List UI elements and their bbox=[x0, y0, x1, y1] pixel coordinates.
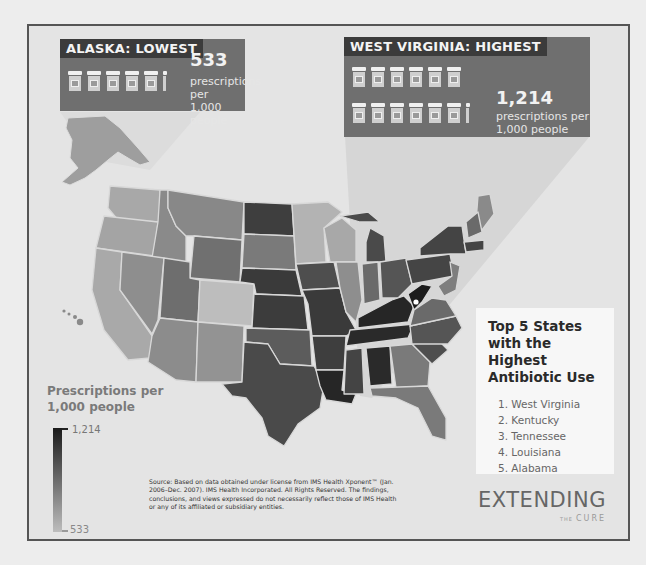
logo-tagline: THECURE bbox=[560, 514, 606, 523]
legend-min-label: 533 bbox=[70, 524, 89, 535]
state-south-dakota bbox=[242, 234, 296, 270]
state-hawaii bbox=[62, 309, 83, 325]
pill-bottle-icon bbox=[390, 67, 404, 87]
extending-the-cure-logo: EXTENDING THECURE bbox=[478, 488, 618, 534]
pill-bottle-icon bbox=[68, 71, 82, 91]
pill-bottle-icon bbox=[87, 71, 101, 91]
pill-bottle-icon bbox=[447, 67, 461, 87]
top-5-title: Top 5 States with the Highest Antibiotic… bbox=[488, 318, 604, 386]
state-kansas bbox=[252, 294, 308, 330]
top-5-item: 5. Alabama bbox=[488, 460, 604, 476]
state-wyoming bbox=[190, 236, 242, 282]
alaska-value: 533 bbox=[190, 49, 228, 70]
legend-tick-max bbox=[62, 428, 68, 430]
pill-bottle-icon bbox=[106, 71, 120, 91]
pill-bottle-icon bbox=[125, 71, 139, 91]
wv-pill-bottles-row2 bbox=[352, 103, 470, 123]
legend-title: Prescriptions per 1,000 people bbox=[47, 383, 163, 415]
wv-unit: prescriptions per 1,000 people bbox=[496, 110, 589, 136]
top-5-states-panel: Top 5 States with the Highest Antibiotic… bbox=[476, 308, 614, 474]
state-colorado bbox=[198, 280, 254, 326]
state-washington bbox=[108, 186, 160, 222]
pill-bottle-icon bbox=[409, 103, 423, 123]
pill-bottle-icon bbox=[144, 71, 158, 91]
partial-pill-bottle-icon bbox=[466, 103, 470, 123]
state-arkansas bbox=[312, 336, 346, 370]
pill-bottle-icon bbox=[409, 67, 423, 87]
state-arizona bbox=[148, 318, 198, 382]
top-5-item: 3. Tennessee bbox=[488, 428, 604, 444]
state-massachusetts bbox=[464, 240, 484, 252]
wv-marker-icon bbox=[413, 299, 418, 304]
pill-bottle-icon bbox=[390, 103, 404, 123]
wv-value: 1,214 bbox=[496, 87, 553, 108]
state-alabama bbox=[366, 346, 392, 386]
pill-bottle-icon bbox=[352, 103, 366, 123]
state-mississippi bbox=[344, 348, 364, 394]
partial-pill-bottle-icon bbox=[163, 71, 167, 91]
state-indiana bbox=[362, 262, 380, 304]
pill-bottle-icon bbox=[447, 103, 461, 123]
legend-max-label: 1,214 bbox=[72, 424, 101, 435]
alaska-unit: prescriptions per 1,000 people bbox=[190, 75, 261, 127]
legend-tick-min bbox=[62, 530, 68, 532]
pill-bottle-icon bbox=[371, 67, 385, 87]
legend-gradient-bar bbox=[53, 428, 62, 532]
source-note: Source: Based on data obtained under lic… bbox=[149, 478, 399, 512]
alaska-pill-bottles bbox=[68, 71, 167, 91]
top-5-item: 1. West Virginia bbox=[488, 396, 604, 412]
state-florida bbox=[370, 386, 446, 440]
top-5-list: 1. West Virginia 2. Kentucky 3. Tennesse… bbox=[488, 396, 604, 476]
alaska-callout-heading: ALASKA: LOWEST bbox=[60, 39, 203, 58]
wv-pill-bottles-row1 bbox=[352, 67, 461, 87]
alaska-lowest-callout: ALASKA: LOWEST 533 prescriptions per 1,0… bbox=[60, 39, 245, 111]
pill-bottle-icon bbox=[428, 67, 442, 87]
state-iowa bbox=[296, 262, 340, 290]
pill-bottle-icon bbox=[428, 103, 442, 123]
wv-callout-heading: WEST VIRGINIA: HIGHEST bbox=[344, 37, 547, 56]
pill-bottle-icon bbox=[352, 67, 366, 87]
state-north-dakota bbox=[244, 202, 294, 236]
top-5-item: 2. Kentucky bbox=[488, 412, 604, 428]
logo-wordmark: EXTENDING bbox=[478, 488, 606, 512]
west-virginia-highest-callout: WEST VIRGINIA: HIGHEST 1,214 prescriptio… bbox=[344, 37, 590, 137]
pill-bottle-icon bbox=[371, 103, 385, 123]
top-5-item: 4. Louisiana bbox=[488, 444, 604, 460]
state-new-mexico bbox=[196, 322, 244, 382]
